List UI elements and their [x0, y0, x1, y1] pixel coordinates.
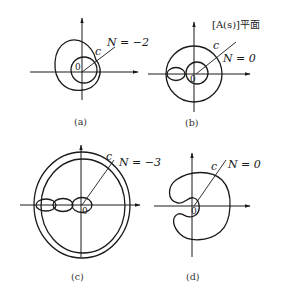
n-label: N = 0 — [227, 158, 261, 171]
panel-c: 0 c N = −3 (c) — [20, 145, 161, 282]
plane-label: [A(s)]平面 — [212, 19, 260, 30]
nyquist-diagrams: 0 c N = −2 (a) [A(s)]平面 0 c N = 0 (b) 0 … — [0, 0, 283, 290]
contour-label: c — [213, 39, 219, 52]
origin-label: 0 — [191, 206, 197, 216]
origin-label: 0 — [82, 206, 88, 216]
radial-ray — [82, 160, 114, 205]
panel-a: 0 c N = −2 (a) — [30, 18, 149, 127]
contour-label: c — [211, 160, 217, 173]
contour-label: c — [95, 45, 101, 58]
panel-b: [A(s)]平面 0 c N = 0 (b) — [148, 19, 260, 128]
n-label: N = −2 — [106, 36, 149, 49]
caption-a: (a) — [74, 116, 87, 127]
panel-d: 0 c N = 0 (d) — [154, 153, 261, 282]
caption-d: (d) — [186, 271, 200, 282]
caption-c: (c) — [71, 271, 84, 282]
origin-label: 0 — [75, 62, 81, 72]
contour-label: c — [106, 150, 112, 163]
caption-b: (b) — [185, 117, 199, 128]
n-label: N = −3 — [118, 156, 161, 169]
radial-ray — [194, 160, 226, 206]
origin-label: 0 — [190, 74, 196, 84]
n-label: N = 0 — [222, 52, 256, 65]
